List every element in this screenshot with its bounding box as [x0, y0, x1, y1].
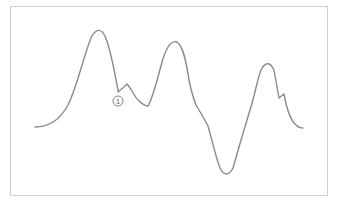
- marker-1: 1: [113, 96, 123, 106]
- waveform-line: [35, 30, 303, 174]
- waveform-diagram: 1: [0, 0, 338, 205]
- marker-label: 1: [116, 97, 121, 106]
